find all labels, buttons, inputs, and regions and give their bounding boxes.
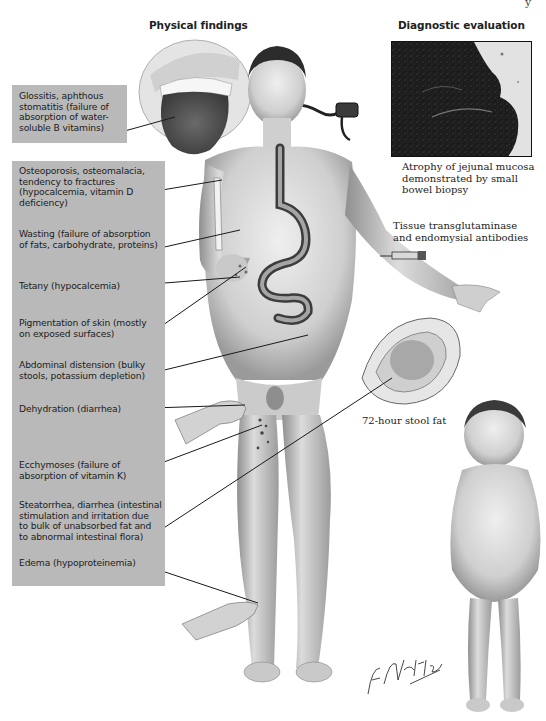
finding-dehydration: Dehydration (diarrhea) [19, 404, 121, 415]
caption-stool-fat: 72-hour stool fat [362, 415, 446, 427]
examiner-hand-lower [182, 602, 258, 640]
bedpan-illustration [362, 318, 460, 404]
caption-biopsy: Atrophy of jejunal mucosa demonstrated b… [402, 161, 534, 196]
finding-ecchymoses: Ecchymoses (failure of absorption of vit… [19, 460, 126, 481]
child-patient-illustration [450, 400, 540, 712]
caption-antibodies: Tissue transglutaminase and endomysial a… [393, 220, 528, 243]
netter-signature [368, 660, 442, 694]
finding-glossitis: Glossitis, aphthous stomatitis (failure … [19, 91, 109, 133]
finding-wasting: Wasting (failure of absorption of fats, … [19, 229, 158, 250]
finding-steatorrhea: Steatorrhea, diarrhea (intestinal stimul… [19, 500, 162, 542]
finding-pigmentation: Pigmentation of skin (mostly on exposed … [19, 318, 146, 339]
tongue-inset-illustration [139, 40, 251, 154]
finding-edema: Edema (hypoproteinemia) [19, 558, 136, 569]
finding-osteoporosis: Osteoporosis, osteomalacia, tendency to … [19, 166, 145, 208]
finding-tetany: Tetany (hypocalcemia) [19, 281, 120, 292]
label-box-findings: Osteoporosis, osteomalacia, tendency to … [12, 161, 165, 586]
label-box-glossitis: Glossitis, aphthous stomatitis (failure … [12, 85, 127, 143]
finding-abdominal-distension: Abdominal distension (bulky stools, pota… [19, 360, 145, 381]
biopsy-micrograph [391, 41, 532, 157]
